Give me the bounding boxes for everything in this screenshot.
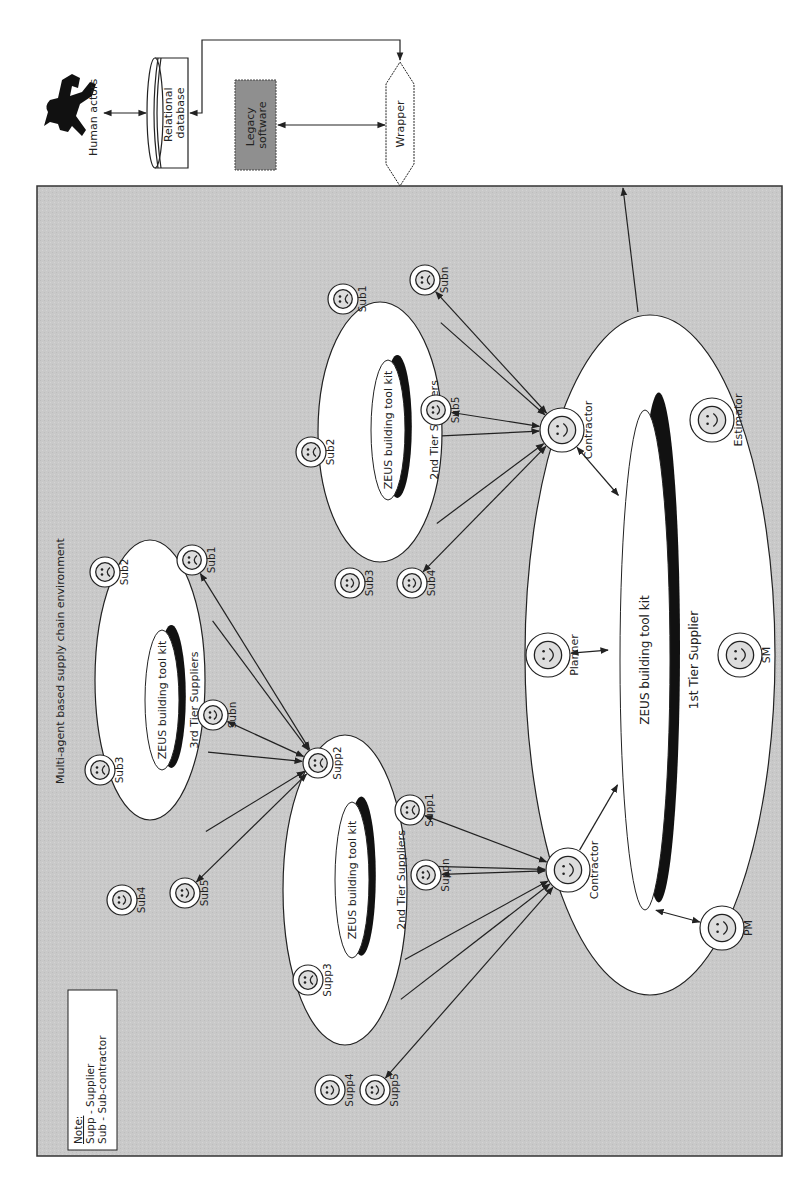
- agent-supp4[interactable]: Supp4: [315, 1073, 355, 1107]
- human-actors-label: Human actors: [87, 78, 100, 156]
- agent-label: Sub2: [324, 439, 336, 466]
- legacy-software-label: Legacy software: [244, 101, 269, 148]
- agent-label: Planner: [568, 634, 581, 676]
- agent-supp5[interactable]: Supp5: [360, 1073, 400, 1106]
- group-label: 2nd Tier Suppliers: [395, 830, 408, 930]
- agent-label: Suppn: [439, 858, 451, 891]
- agent-label: Supp2: [331, 746, 343, 779]
- agent-sub2[interactable]: Sub2: [90, 557, 130, 587]
- sad-face-icon: [299, 971, 318, 990]
- agent-label: Sub4: [135, 886, 147, 913]
- agent-label: SM: [760, 647, 773, 663]
- smiley-face-icon: [366, 1081, 385, 1100]
- toolkit-label: ZEUS building tool kit: [156, 640, 169, 759]
- agent-label: Supp1: [423, 793, 435, 826]
- smiley-face-icon: [403, 574, 422, 593]
- toolkit-label: ZEUS building tool kit: [382, 370, 395, 489]
- agent-sub5[interactable]: Sub5: [170, 878, 210, 908]
- agent-label: Supp4: [343, 1073, 355, 1107]
- smiley-face-icon: [427, 401, 446, 420]
- agent-label: Supp3: [321, 963, 333, 996]
- smiley-face-icon: [698, 406, 725, 433]
- agent-label: Contractor: [582, 400, 595, 459]
- smiley-face-icon: [554, 856, 581, 883]
- agent-label: Subn: [438, 267, 450, 294]
- agent-label: PM: [742, 920, 755, 936]
- sad-face-icon: [334, 290, 353, 309]
- agent-label: Supp5: [388, 1073, 400, 1106]
- agent-supp2[interactable]: Supp2: [303, 746, 343, 779]
- agent-label: Sub1: [205, 547, 217, 574]
- toolkit-label: ZEUS building tool kit: [346, 820, 359, 939]
- wrapper-label: Wrapper: [394, 100, 407, 147]
- agent-sub3[interactable]: Sub3: [85, 755, 125, 785]
- agent-label: Sub1: [356, 286, 368, 313]
- smiley-face-icon: [204, 706, 223, 725]
- agent-label: Contractor: [588, 840, 601, 899]
- agent-label: Sub3: [363, 570, 375, 597]
- second-tier-supp-group: ZEUS building tool kit2nd Tier Suppliers: [283, 735, 408, 1045]
- sad-face-icon: [91, 761, 110, 780]
- group-label: 1st Tier Supplier: [687, 611, 701, 709]
- note-box: Note: Supp - Supplier Sub - Sub-contract…: [68, 990, 117, 1150]
- toolkit-label: ZEUS building tool kit: [638, 595, 652, 725]
- smiley-face-icon: [113, 891, 132, 910]
- smiley-face-icon: [417, 866, 436, 885]
- agent-label: Estimator: [732, 393, 745, 447]
- agent-label: Subn: [226, 702, 238, 729]
- agent-label: Sub2: [118, 559, 130, 586]
- agent-subn[interactable]: Subn: [410, 265, 450, 295]
- sad-face-icon: [401, 801, 420, 820]
- environment-title: Multi-agent based supply chain environme…: [54, 537, 67, 784]
- smiley-face-icon: [176, 884, 195, 903]
- smiley-face-icon: [341, 574, 360, 593]
- agent-sub1[interactable]: Sub1: [328, 284, 368, 314]
- sad-face-icon: [416, 271, 435, 290]
- agent-suppn[interactable]: Suppn: [411, 858, 451, 891]
- second-tier-sub-group: ZEUS building tool kit2nd Tier Suppliers: [318, 302, 442, 562]
- smiley-face-icon: [321, 1081, 340, 1100]
- agent-planner[interactable]: Planner: [526, 633, 581, 677]
- smiley-face-icon: [726, 641, 753, 668]
- agent-sub1[interactable]: Sub1: [177, 545, 217, 575]
- smiley-face-icon: [548, 416, 575, 443]
- agent-supp3[interactable]: Supp3: [293, 963, 333, 996]
- supply-chain-diagram: Human actors Relational database Legacy …: [0, 0, 812, 1190]
- agent-label: Sub5: [198, 880, 210, 907]
- sad-face-icon: [183, 551, 202, 570]
- sad-face-icon: [309, 754, 328, 773]
- group-label: 3rd Tier Suppliers: [188, 651, 201, 748]
- db-wrapper-link: [190, 40, 400, 113]
- agent-sub4[interactable]: Sub4: [107, 885, 147, 915]
- sad-face-icon: [96, 563, 115, 582]
- agent-supp1[interactable]: Supp1: [395, 793, 435, 826]
- smiley-face-icon: [708, 914, 735, 941]
- agent-subn[interactable]: Subn: [198, 700, 238, 730]
- agent-label: Sub3: [113, 757, 125, 784]
- agent-sub5[interactable]: Sub5: [421, 395, 461, 425]
- agent-sub3[interactable]: Sub3: [335, 568, 375, 598]
- sad-face-icon: [302, 443, 321, 462]
- smiley-face-icon: [534, 641, 561, 668]
- agent-label: Sub4: [425, 569, 437, 596]
- agent-sub4[interactable]: Sub4: [397, 568, 437, 598]
- database-label: Relational database: [162, 84, 187, 142]
- agent-sub2[interactable]: Sub2: [296, 437, 336, 467]
- agent-label: Sub5: [449, 397, 461, 424]
